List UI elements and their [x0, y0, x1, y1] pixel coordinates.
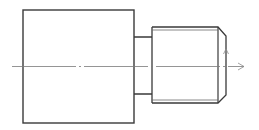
thread-outline — [152, 27, 226, 103]
technical-drawing — [0, 0, 259, 130]
neck-outline — [134, 37, 152, 94]
